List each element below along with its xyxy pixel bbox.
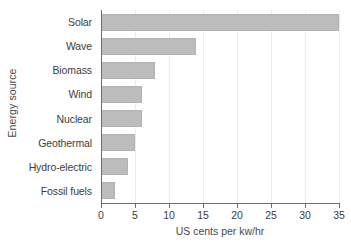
- y-axis-title-text: Energy source: [5, 68, 17, 137]
- category-label: Solar: [22, 10, 97, 34]
- x-axis-tick-label: 20: [231, 209, 243, 221]
- x-axis-tick-label: 35: [333, 209, 345, 221]
- bar-row: [101, 107, 339, 131]
- bar-row: [101, 131, 339, 155]
- x-axis-tick-label: 30: [299, 209, 311, 221]
- category-label: Wind: [22, 82, 97, 106]
- bar-row: [101, 179, 339, 203]
- x-axis-tick-label: 25: [265, 209, 277, 221]
- category-axis-labels: SolarWaveBiomassWindNuclearGeothermalHyd…: [22, 10, 97, 203]
- x-axis-tick-label: 0: [98, 209, 104, 221]
- bar-series: [101, 10, 339, 203]
- category-label: Wave: [22, 34, 97, 58]
- x-axis-tick-mark: [135, 204, 136, 208]
- bar-row: [101, 82, 339, 106]
- x-axis-tick-label: 10: [163, 209, 175, 221]
- bar[interactable]: [101, 62, 155, 79]
- category-label: Geothermal: [22, 131, 97, 155]
- x-axis-title: US cents per kw/hr: [101, 225, 339, 237]
- gridline: [339, 10, 340, 203]
- bar[interactable]: [101, 182, 115, 199]
- bar[interactable]: [101, 38, 196, 55]
- x-axis-tick-label: 5: [132, 209, 138, 221]
- x-axis-tick-mark: [203, 204, 204, 208]
- bar-row: [101, 58, 339, 82]
- bar[interactable]: [101, 110, 142, 127]
- bar[interactable]: [101, 158, 128, 175]
- bar[interactable]: [101, 86, 142, 103]
- bar[interactable]: [101, 14, 339, 31]
- x-axis-tick-mark: [305, 204, 306, 208]
- x-axis-tick-mark: [237, 204, 238, 208]
- plot-area: [101, 10, 339, 203]
- bar[interactable]: [101, 134, 135, 151]
- x-axis-tick-mark: [271, 204, 272, 208]
- category-label: Fossil fuels: [22, 179, 97, 203]
- x-axis-tick-mark: [169, 204, 170, 208]
- category-label: Nuclear: [22, 107, 97, 131]
- y-axis-line: [101, 10, 102, 204]
- category-label: Hydro-electric: [22, 155, 97, 179]
- category-label: Biomass: [22, 58, 97, 82]
- bar-chart: Energy source SolarWaveBiomassWindNuclea…: [0, 0, 351, 247]
- y-axis-title: Energy source: [0, 0, 22, 205]
- bar-row: [101, 34, 339, 58]
- x-axis-tick-mark: [101, 204, 102, 208]
- bar-row: [101, 155, 339, 179]
- x-axis-tick-label: 15: [197, 209, 209, 221]
- x-axis-tick-mark: [339, 204, 340, 208]
- bar-row: [101, 10, 339, 34]
